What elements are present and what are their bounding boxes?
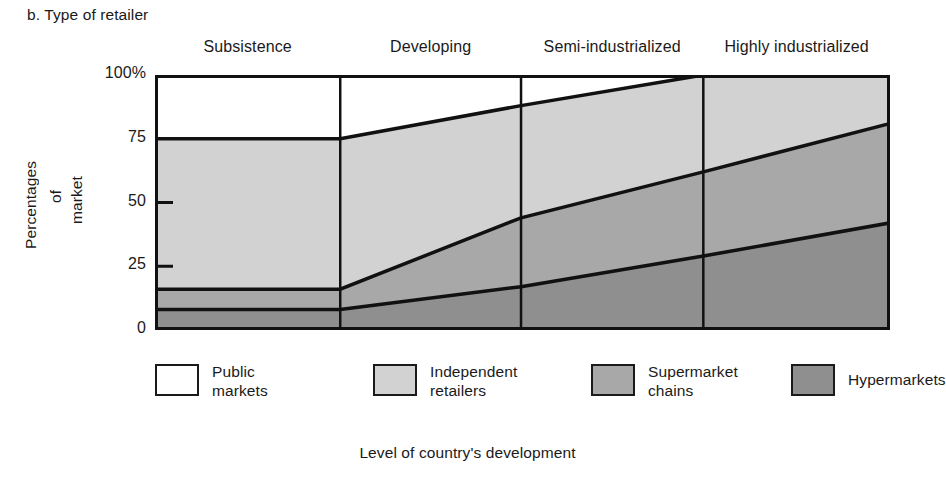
- stacked-area-plot: [155, 75, 890, 330]
- plot-canvas: [155, 75, 890, 330]
- legend-item-hypermarkets[interactable]: Hypermarkets: [791, 362, 946, 396]
- y-tick-label-25: 25: [78, 255, 146, 273]
- y-tick-label-50: 50: [78, 192, 146, 210]
- y-axis-tick-labels: 100%7550250: [78, 0, 146, 479]
- legend-label-hypermarkets: Hypermarkets: [848, 370, 946, 389]
- y-axis-title-line-3: market: [68, 160, 86, 240]
- legend-label-line: Independent: [430, 362, 517, 381]
- legend-label-independent-retailers: Independentretailers: [430, 362, 517, 400]
- legend-swatch-supermarket-chains: [591, 364, 635, 396]
- y-axis-title-line-2: of: [47, 176, 65, 216]
- y-tick-label-100: 100%: [78, 64, 146, 82]
- legend-swatch-independent-retailers: [373, 364, 417, 396]
- legend-label-public-markets: Publicmarkets: [212, 362, 268, 400]
- x-axis-title: Level of country's development: [0, 444, 935, 462]
- legend-swatch-public-markets: [155, 364, 199, 396]
- legend-label-line: Supermarket: [648, 362, 738, 381]
- y-axis-title-line-1: Percentages: [22, 120, 40, 290]
- legend-item-supermarket-chains[interactable]: Supermarketchains: [591, 362, 738, 400]
- legend-label-supermarket-chains: Supermarketchains: [648, 362, 738, 400]
- legend-label-line: Public: [212, 362, 268, 381]
- category-label-highly-industrialized: Highly industrialized: [673, 38, 920, 56]
- legend-label-line: retailers: [430, 381, 517, 400]
- legend-label-line: Hypermarkets: [848, 370, 946, 389]
- y-tick-label-0: 0: [78, 319, 146, 337]
- legend-item-public-markets[interactable]: Publicmarkets: [155, 362, 268, 400]
- y-tick-label-75: 75: [78, 128, 146, 146]
- legend-label-line: chains: [648, 381, 738, 400]
- legend-item-independent-retailers[interactable]: Independentretailers: [373, 362, 517, 400]
- legend-swatch-hypermarkets: [791, 364, 835, 396]
- legend: PublicmarketsIndependentretailersSuperma…: [155, 362, 935, 424]
- legend-label-line: markets: [212, 381, 268, 400]
